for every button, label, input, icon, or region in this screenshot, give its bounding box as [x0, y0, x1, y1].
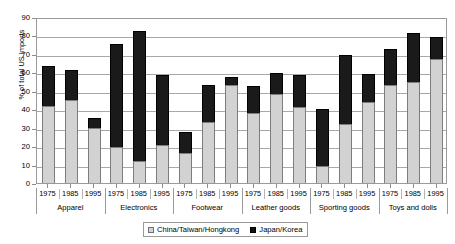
- x-axis-tick-mark: [390, 184, 391, 188]
- x-axis-tick-mark: [253, 184, 254, 188]
- bar-segment-china-taiwan-hongkong: [156, 145, 169, 183]
- x-axis-tick-mark: [436, 184, 437, 188]
- bar-segment-china-taiwan-hongkong: [316, 166, 329, 183]
- group-separator: [447, 188, 448, 214]
- bar-segment-japan-korea: [225, 77, 238, 85]
- bar-segment-japan-korea: [202, 85, 215, 122]
- bar: [202, 85, 215, 183]
- bar: [156, 75, 169, 183]
- bar-segment-china-taiwan-hongkong: [339, 124, 352, 183]
- x-axis-tick-mark: [299, 184, 300, 188]
- legend-swatch-grey: [148, 227, 154, 233]
- x-axis-year-label: 1985: [268, 189, 284, 198]
- x-axis-tick-mark: [276, 184, 277, 188]
- x-axis-year-label: 1995: [359, 189, 375, 198]
- x-axis-year-label: 1995: [222, 189, 238, 198]
- bar: [133, 31, 146, 183]
- bar: [110, 44, 123, 183]
- x-axis-tick-mark: [93, 184, 94, 188]
- x-axis-year-label: 1975: [39, 189, 55, 198]
- x-axis-year-label: 1995: [290, 189, 306, 198]
- group-separator: [242, 188, 243, 214]
- bar-segment-china-taiwan-hongkong: [247, 113, 260, 183]
- legend-item: Japan/Korea: [250, 225, 302, 234]
- bar-segment-japan-korea: [293, 75, 306, 107]
- x-axis-tick-mark: [162, 184, 163, 188]
- chart-legend: China/Taiwan/HongkongJapan/Korea: [143, 222, 308, 237]
- x-axis-group-label: Footwear: [191, 203, 223, 212]
- bar-segment-japan-korea: [270, 73, 283, 94]
- group-separator: [105, 188, 106, 214]
- x-axis-year-label: 1985: [405, 189, 421, 198]
- x-axis-year-label: 1985: [131, 189, 147, 198]
- x-axis-tick-mark: [413, 184, 414, 188]
- bar-segment-japan-korea: [430, 37, 443, 59]
- x-axis-group-label: Toys and dolls: [389, 203, 437, 212]
- bar-segment-japan-korea: [65, 70, 78, 100]
- x-axis-tick-mark: [184, 184, 185, 188]
- bar: [247, 86, 260, 183]
- group-separator: [379, 188, 380, 214]
- x-axis-group-label: Apparel: [57, 203, 83, 212]
- x-axis-group-label: Electronics: [120, 203, 157, 212]
- x-axis-year-label: 1985: [336, 189, 352, 198]
- legend-item: China/Taiwan/Hongkong: [148, 225, 239, 234]
- year-label-separator: [356, 189, 357, 199]
- x-axis-year-label: 1975: [245, 189, 261, 198]
- x-axis-tick-mark: [116, 184, 117, 188]
- year-label-separator: [401, 189, 402, 199]
- bar-segment-china-taiwan-hongkong: [407, 82, 420, 183]
- bar-segment-china-taiwan-hongkong: [225, 85, 238, 183]
- bar-segment-japan-korea: [316, 109, 329, 166]
- x-axis-tick-mark: [207, 184, 208, 188]
- x-axis-tick-mark: [70, 184, 71, 188]
- x-axis-year-label: 1995: [153, 189, 169, 198]
- x-axis-tick-mark: [230, 184, 231, 188]
- bar-segment-china-taiwan-hongkong: [362, 102, 375, 183]
- x-axis-year-label: 1995: [85, 189, 101, 198]
- bar: [316, 109, 329, 183]
- bar-segment-japan-korea: [42, 66, 55, 106]
- bar: [430, 37, 443, 183]
- bar: [42, 66, 55, 183]
- y-axis-tick-marks: [0, 18, 36, 184]
- year-label-separator: [127, 189, 128, 199]
- bar-segment-japan-korea: [156, 75, 169, 145]
- year-label-separator: [82, 189, 83, 199]
- year-label-separator: [59, 189, 60, 199]
- group-separator: [173, 188, 174, 214]
- year-label-separator: [196, 189, 197, 199]
- x-axis-tick-mark: [47, 184, 48, 188]
- x-axis-year-label: 1985: [62, 189, 78, 198]
- bar-segment-china-taiwan-hongkong: [270, 94, 283, 183]
- legend-label: China/Taiwan/Hongkong: [157, 225, 239, 234]
- bar-segment-japan-korea: [407, 33, 420, 82]
- year-label-separator: [287, 189, 288, 199]
- bar-segment-japan-korea: [133, 31, 146, 161]
- x-axis-year-label: 1975: [176, 189, 192, 198]
- bar: [225, 77, 238, 183]
- bar: [384, 49, 397, 183]
- group-separator: [310, 188, 311, 214]
- bar-series-container: [37, 19, 446, 183]
- bar: [65, 70, 78, 183]
- bar-segment-china-taiwan-hongkong: [133, 161, 146, 183]
- bar-segment-china-taiwan-hongkong: [202, 122, 215, 183]
- bar-segment-china-taiwan-hongkong: [384, 85, 397, 183]
- year-label-separator: [219, 189, 220, 199]
- x-axis-tick-mark: [367, 184, 368, 188]
- bar-segment-china-taiwan-hongkong: [110, 147, 123, 183]
- year-label-separator: [424, 189, 425, 199]
- x-axis: 1975198519951975198519951975198519951975…: [36, 184, 447, 222]
- bar-segment-japan-korea: [384, 49, 397, 85]
- bar-segment-china-taiwan-hongkong: [293, 107, 306, 183]
- bar: [293, 75, 306, 183]
- year-label-separator: [333, 189, 334, 199]
- x-axis-year-label: 1975: [382, 189, 398, 198]
- x-axis-year-label: 1995: [427, 189, 443, 198]
- x-axis-tick-mark: [139, 184, 140, 188]
- bar-segment-china-taiwan-hongkong: [88, 128, 101, 183]
- bar: [270, 73, 283, 183]
- bar-segment-japan-korea: [88, 118, 101, 127]
- year-label-separator: [264, 189, 265, 199]
